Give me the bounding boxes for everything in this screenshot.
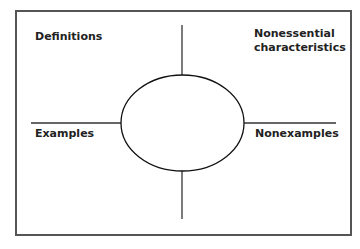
nonexamples-label: Nonexamples <box>255 127 339 141</box>
nonessential-characteristics-label: Nonessential characteristics <box>254 27 346 55</box>
examples-label: Examples <box>35 127 94 141</box>
nonessential-line2: characteristics <box>254 41 346 55</box>
definitions-label: Definitions <box>35 30 102 44</box>
nonessential-line1: Nonessential <box>254 27 346 41</box>
center-oval <box>121 75 244 171</box>
